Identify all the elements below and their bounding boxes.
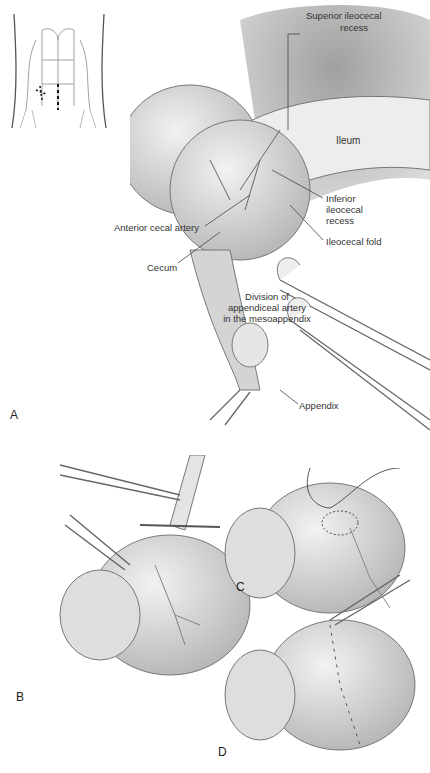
panel-label-a: A — [10, 408, 18, 422]
label-superior-ileocecal-recess-line1: Superior ileocecal — [306, 10, 382, 21]
label-superior-ileocecal-recess-line2: recess — [340, 22, 368, 33]
label-ileocecal-fold: Ileocecal fold — [326, 236, 381, 247]
label-cecum: Cecum — [147, 262, 177, 273]
appendectomy-figure: Superior ileocecal recess Ileum Inferior… — [0, 0, 430, 773]
label-appendix: Appendix — [299, 400, 339, 411]
abdomen-inset — [6, 10, 112, 128]
panel-a-illustration — [130, 0, 430, 430]
label-inferior-recess-line1: Inferior — [326, 193, 356, 204]
panel-d-illustration — [220, 575, 425, 760]
panel-label-d: D — [218, 745, 227, 759]
label-ileum: Ileum — [336, 135, 360, 146]
label-inferior-recess-line3: recess — [326, 215, 354, 226]
label-division-line3: in the mesoappendix — [212, 313, 322, 324]
label-anterior-cecal-artery: Anterior cecal artery — [114, 222, 199, 233]
label-inferior-recess-line2: ileocecal — [326, 204, 363, 215]
label-division-line1: Division of — [212, 291, 322, 302]
panel-label-c: C — [236, 580, 245, 594]
panel-label-b: B — [16, 690, 24, 704]
label-division-line2: appendiceal artery — [212, 302, 322, 313]
